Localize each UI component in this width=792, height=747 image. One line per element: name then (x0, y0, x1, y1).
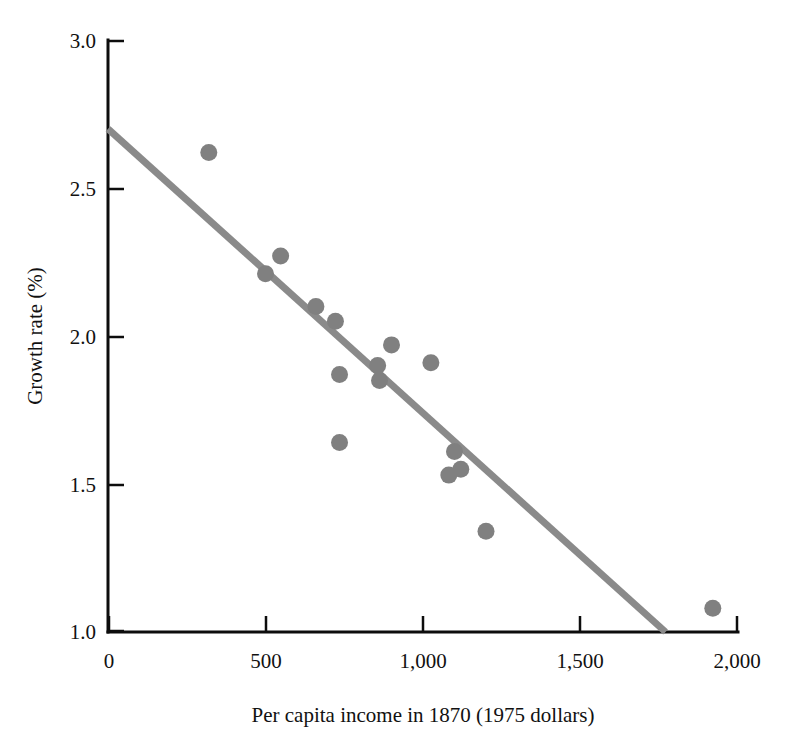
x-tick-label-0: 0 (104, 649, 115, 673)
y-tick-label-3.0: 3.0 (70, 29, 96, 53)
data-point (704, 600, 721, 617)
x-axis-ticks (109, 616, 737, 632)
x-axis-title: Per capita income in 1870 (1975 dollars) (252, 703, 595, 727)
data-points-group (200, 144, 721, 617)
x-tick-label-2000: 2,000 (713, 649, 760, 673)
data-point (422, 354, 439, 371)
plot-canvas: Growth rate (%) Per capita income in 187… (0, 0, 792, 747)
data-point (383, 336, 400, 353)
data-point (440, 467, 457, 484)
y-tick-labels: 3.0 2.5 2.0 1.5 1.0 (70, 29, 96, 644)
data-point (200, 144, 217, 161)
y-tick-label-2.5: 2.5 (70, 177, 96, 201)
data-point (369, 357, 386, 374)
data-point (331, 434, 348, 451)
data-point (331, 366, 348, 383)
data-point (478, 523, 495, 540)
data-point (257, 265, 274, 282)
data-point (272, 248, 289, 265)
x-tick-label-500: 500 (250, 649, 282, 673)
y-tick-label-1.5: 1.5 (70, 473, 96, 497)
x-tick-label-1000: 1,000 (399, 649, 446, 673)
axes-group (108, 40, 738, 632)
data-point (307, 298, 324, 315)
scatter-plot-figure: Growth rate (%) Per capita income in 187… (0, 0, 792, 747)
x-tick-labels: 0 500 1,000 1,500 2,000 (104, 649, 761, 673)
data-point (371, 372, 388, 389)
y-tick-label-2.0: 2.0 (70, 325, 96, 349)
data-point (327, 313, 344, 330)
y-tick-label-1.0: 1.0 (70, 620, 96, 644)
data-point (446, 443, 463, 460)
y-axis-title: Growth rate (%) (23, 267, 47, 405)
x-tick-label-1500: 1,500 (556, 649, 603, 673)
